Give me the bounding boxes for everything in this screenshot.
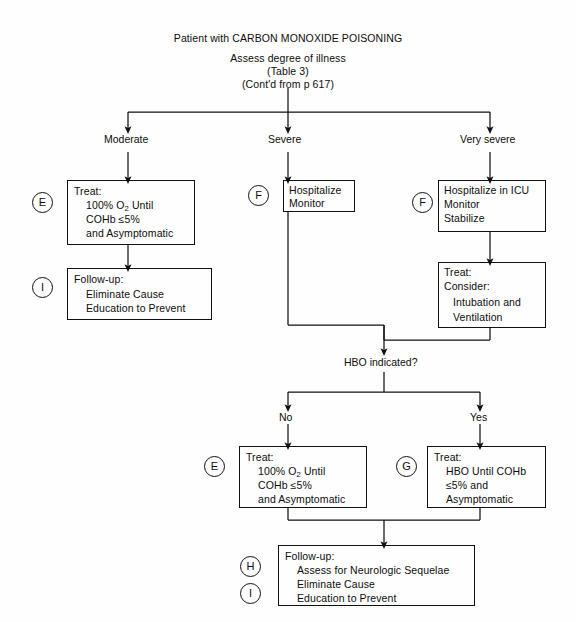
o2-suffix-2: Until xyxy=(301,465,326,477)
box-hospitalize-icu-line2: Monitor xyxy=(444,197,480,211)
box-followup-final-line2: Assess for Neurologic Sequelae xyxy=(297,563,449,577)
diagram-subtitle-continued: (Cont'd from p 617) xyxy=(0,78,576,91)
box-treat-hbo-line1: Treat: xyxy=(434,450,462,464)
branch-label-severe: Severe xyxy=(268,133,301,145)
box-followup-final-line1: Follow-up: xyxy=(285,549,334,563)
box-hospitalize-icu-line1: Hospitalize in ICU xyxy=(444,183,529,197)
branch-label-moderate: Moderate xyxy=(104,133,148,145)
box-treat-hbo-line3: ≤5% and xyxy=(446,478,488,492)
box-followup-final-line4: Education to Prevent xyxy=(297,591,396,605)
box-followup-moderate-line1: Follow-up: xyxy=(74,272,123,286)
marker-g-hbo: G xyxy=(396,456,417,477)
decision-hbo-indicated: HBO indicated? xyxy=(344,356,418,368)
o2-suffix: Until xyxy=(129,199,154,211)
flowchart-page: Patient with CARBON MONOXIDE POISONING A… xyxy=(0,0,576,622)
box-treat-no-hbo-line1: Treat: xyxy=(246,450,274,464)
branch-label-very-severe: Very severe xyxy=(460,133,515,145)
box-treat-moderate-line1: Treat: xyxy=(74,184,102,198)
marker-e-no-hbo: E xyxy=(204,456,225,477)
box-treat-consider-line1: Treat: xyxy=(444,265,472,279)
box-treat-no-hbo-line4: and Asymptomatic xyxy=(258,492,345,506)
box-hospitalize-severe-line2: Monitor xyxy=(289,196,325,210)
box-treat-consider-line2: Consider: xyxy=(444,279,490,293)
diagram-subtitle-table: (Table 3) xyxy=(0,65,576,78)
box-treat-hbo-line4: Asymptomatic xyxy=(446,492,513,506)
marker-f-very-severe: F xyxy=(412,192,433,213)
box-followup-moderate-line3: Education to Prevent xyxy=(86,301,185,315)
marker-i-moderate: I xyxy=(32,277,53,298)
decision-branch-no: No xyxy=(279,411,292,423)
decision-branch-yes: Yes xyxy=(470,411,487,423)
box-treat-moderate-line3: COHb ≤5% xyxy=(86,212,140,226)
box-treat-hbo-line2: HBO Until COHb xyxy=(446,464,526,478)
box-treat-consider-line3: Intubation and xyxy=(453,295,521,309)
o2-prefix-2: 100% O xyxy=(258,465,297,477)
box-treat-no-hbo-line3: COHb ≤5% xyxy=(258,478,312,492)
box-followup-final-line3: Eliminate Cause xyxy=(297,577,375,591)
marker-i-final: I xyxy=(240,583,261,604)
box-treat-moderate-line4: and Asymptomatic xyxy=(86,226,173,240)
box-followup-moderate-line2: Eliminate Cause xyxy=(86,287,164,301)
box-treat-consider-line4: Ventilation xyxy=(453,310,503,324)
marker-f-severe: F xyxy=(248,185,269,206)
o2-prefix: 100% O xyxy=(86,199,125,211)
box-hospitalize-icu-line3: Stabilize xyxy=(444,211,485,225)
diagram-subtitle-assess: Assess degree of illness xyxy=(0,52,576,65)
diagram-title: Patient with CARBON MONOXIDE POISONING xyxy=(0,32,576,45)
marker-e-moderate: E xyxy=(32,192,53,213)
marker-h-final: H xyxy=(240,556,261,577)
